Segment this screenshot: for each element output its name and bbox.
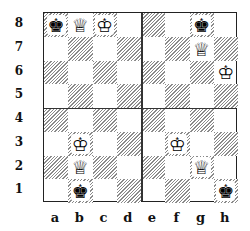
square-f4 [165, 108, 189, 132]
square-f7 [165, 37, 189, 61]
square-g2: ♕ [190, 156, 214, 180]
square-g4 [190, 108, 214, 132]
square-h6: ♔ [214, 61, 238, 85]
white-queen-icon: ♕ [68, 156, 92, 180]
square-h7 [214, 37, 238, 61]
square-b2: ♕ [68, 156, 92, 180]
square-e7 [141, 37, 165, 61]
square-h1: ♚ [214, 179, 238, 203]
square-a2 [44, 156, 68, 180]
file-label-g: g [189, 210, 213, 225]
white-king-icon: ♔ [214, 61, 238, 85]
square-e4 [141, 108, 165, 132]
square-d6 [117, 61, 141, 85]
square-a5 [44, 84, 68, 108]
square-e8 [141, 13, 165, 37]
square-f2 [165, 156, 189, 180]
square-d7 [117, 37, 141, 61]
square-f3: ♔ [165, 132, 189, 156]
square-c4 [93, 108, 117, 132]
square-a7 [44, 37, 68, 61]
rank-label-6: 6 [12, 64, 26, 78]
piece-glyph: ♕ [71, 15, 90, 35]
square-c3 [93, 132, 117, 156]
square-c6 [93, 61, 117, 85]
square-g1 [190, 179, 214, 203]
white-queen-icon: ♕ [190, 156, 214, 180]
square-f5 [165, 84, 189, 108]
square-b3: ♔ [68, 132, 92, 156]
file-label-a: a [43, 210, 67, 225]
black-king-icon: ♚ [190, 13, 214, 37]
piece-glyph: ♔ [216, 62, 235, 82]
white-king-icon: ♔ [68, 132, 92, 156]
piece-glyph: ♕ [71, 157, 90, 177]
square-e1 [141, 179, 165, 203]
piece-glyph: ♔ [168, 134, 187, 154]
square-h8 [214, 13, 238, 37]
rank-label-4: 4 [12, 111, 26, 125]
rank-label-8: 8 [12, 16, 26, 30]
square-a1 [44, 179, 68, 203]
square-a3 [44, 132, 68, 156]
square-b7 [68, 37, 92, 61]
square-f6 [165, 61, 189, 85]
quadrant-divider-horizontal [44, 108, 236, 110]
square-e6 [141, 61, 165, 85]
square-a4 [44, 108, 68, 132]
square-c2 [93, 156, 117, 180]
square-h4 [214, 108, 238, 132]
square-b1: ♚ [68, 179, 92, 203]
square-g3 [190, 132, 214, 156]
file-label-e: e [140, 210, 164, 225]
piece-glyph: ♚ [216, 181, 235, 201]
file-label-d: d [116, 210, 140, 225]
black-king-icon: ♚ [214, 179, 238, 203]
square-g7: ♕ [190, 37, 214, 61]
chessboard: ♚♚♕♕♔♔♔♕♚♔♕♚ [43, 12, 237, 202]
white-queen-icon: ♕ [68, 13, 92, 37]
piece-glyph: ♚ [192, 15, 211, 35]
square-b6 [68, 61, 92, 85]
square-d3 [117, 132, 141, 156]
piece-glyph: ♚ [47, 15, 66, 35]
square-d1 [117, 179, 141, 203]
rank-label-2: 2 [12, 159, 26, 173]
square-g5 [190, 84, 214, 108]
file-label-b: b [67, 210, 91, 225]
piece-glyph: ♚ [71, 181, 90, 201]
white-king-icon: ♔ [93, 13, 117, 37]
square-e3 [141, 132, 165, 156]
square-f1 [165, 179, 189, 203]
square-d5 [117, 84, 141, 108]
square-h5 [214, 84, 238, 108]
square-g8: ♚ [190, 13, 214, 37]
square-c1 [93, 179, 117, 203]
piece-glyph: ♕ [192, 157, 211, 177]
square-d2 [117, 156, 141, 180]
piece-glyph: ♔ [71, 134, 90, 154]
rank-label-7: 7 [12, 40, 26, 54]
rank-label-3: 3 [12, 135, 26, 149]
square-h3 [214, 132, 238, 156]
square-d4 [117, 108, 141, 132]
rank-label-1: 1 [12, 182, 26, 196]
rank-label-5: 5 [12, 87, 26, 101]
square-e2 [141, 156, 165, 180]
piece-glyph: ♕ [192, 39, 211, 59]
black-king-icon: ♚ [68, 179, 92, 203]
file-label-c: c [92, 210, 116, 225]
square-b5 [68, 84, 92, 108]
square-e5 [141, 84, 165, 108]
square-c8: ♔ [93, 13, 117, 37]
square-b4 [68, 108, 92, 132]
square-g6 [190, 61, 214, 85]
square-h2 [214, 156, 238, 180]
file-label-f: f [164, 210, 188, 225]
square-c5 [93, 84, 117, 108]
square-a8: ♚ [44, 13, 68, 37]
square-c7 [93, 37, 117, 61]
square-b8: ♕ [68, 13, 92, 37]
white-king-icon: ♔ [165, 132, 189, 156]
square-d8 [117, 13, 141, 37]
